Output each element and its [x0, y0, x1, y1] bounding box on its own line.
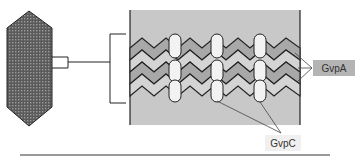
- gvpc-column-3: [254, 34, 266, 102]
- diagram-canvas: GvpA GvpC: [0, 0, 356, 156]
- gas-vesicle: [7, 11, 52, 126]
- connector-bracket: [52, 34, 126, 103]
- gvpc-label: GvpC: [265, 135, 301, 151]
- gvpc-column-1: [169, 34, 181, 102]
- gvpa-label: GvpA: [313, 60, 355, 76]
- diagram-svg: [0, 0, 356, 156]
- gvpc-column-2: [211, 34, 223, 102]
